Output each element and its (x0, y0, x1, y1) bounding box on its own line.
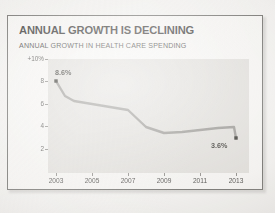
growth-line (56, 81, 236, 138)
x-tick-label-2013: 2013 (220, 177, 252, 184)
data-label-2013: 3.6% (211, 141, 227, 150)
x-tick-label-2009: 2009 (148, 177, 180, 184)
x-tick-mark-2011 (200, 173, 201, 176)
plot-area: +10% 8 6 4 2 8.6% 3.6% 2003 2005 (8, 16, 264, 191)
marker-2013 (234, 136, 237, 139)
chart-card: ANNUAL GROWTH IS DECLINING ANNUAL GROWTH… (7, 15, 263, 190)
line-series-svg (8, 16, 264, 191)
screenshot-root: ANNUAL GROWTH IS DECLINING ANNUAL GROWTH… (0, 0, 275, 213)
marker-2003 (54, 79, 57, 82)
x-tick-mark-2005 (92, 173, 93, 176)
x-tick-mark-2013 (236, 173, 237, 176)
x-tick-mark-2003 (56, 173, 57, 176)
x-tick-label-2011: 2011 (184, 177, 216, 184)
x-tick-label-2003: 2003 (40, 177, 72, 184)
data-label-2003: 8.6% (55, 68, 71, 77)
x-tick-mark-2009 (164, 173, 165, 176)
x-tick-label-2005: 2005 (76, 177, 108, 184)
x-tick-mark-2007 (128, 173, 129, 176)
x-tick-label-2007: 2007 (112, 177, 144, 184)
